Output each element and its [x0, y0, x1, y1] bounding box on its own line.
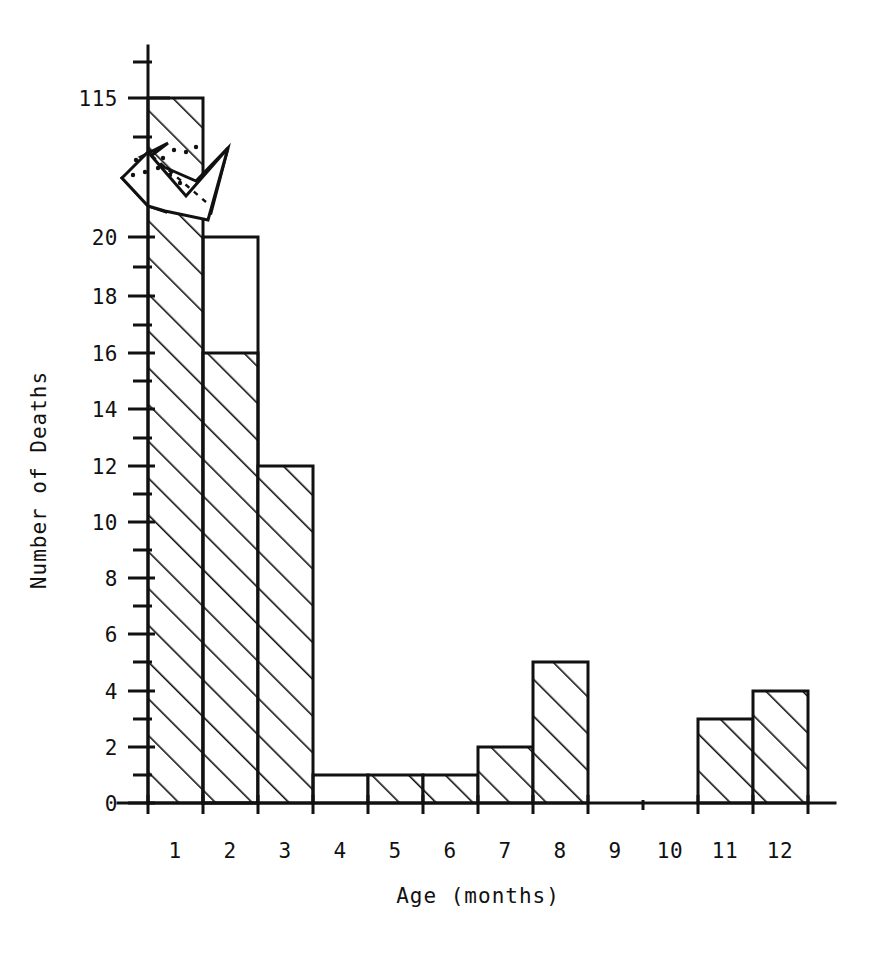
bar-month-5: [368, 775, 423, 803]
bar-month-2: [203, 237, 258, 803]
y-tick-label: 4: [105, 680, 118, 704]
x-tick-label: 12: [767, 839, 793, 863]
y-axis-tick-labels: 0 2 4 6 8 10 12 14 16 18 20 115: [79, 87, 118, 816]
bar-month-4: [313, 775, 368, 803]
x-tick-label: 9: [608, 839, 621, 863]
bar-month-3: [258, 466, 313, 803]
x-axis-tick-labels: 1 2 3 4 5 6 7 8 9 10 11 12: [168, 839, 793, 863]
y-tick-label: 14: [92, 398, 118, 422]
x-tick-label: 8: [553, 839, 566, 863]
y-tick-label: 12: [92, 455, 118, 479]
x-tick-label: 7: [498, 839, 511, 863]
bar-month-8: [533, 662, 588, 803]
x-axis-title: Age (months): [396, 884, 560, 908]
bar-month-11: [698, 719, 753, 803]
chart-canvas: 0 2 4 6 8 10 12 14 16 18 20 115 1 2 3 4 …: [0, 0, 880, 961]
y-tick-label-break: 115: [79, 87, 118, 111]
y-tick-label: 8: [105, 567, 118, 591]
y-tick-label: 6: [105, 623, 118, 647]
x-tick-label: 1: [168, 839, 181, 863]
bar-month-7: [478, 747, 533, 803]
x-tick-label: 2: [223, 839, 236, 863]
x-tick-label: 10: [657, 839, 683, 863]
x-tick-label: 6: [443, 839, 456, 863]
x-tick-label: 4: [333, 839, 346, 863]
histogram-figure: 0 2 4 6 8 10 12 14 16 18 20 115 1 2 3 4 …: [0, 0, 880, 961]
y-tick-label: 18: [92, 285, 118, 309]
y-tick-label: 20: [92, 226, 118, 250]
y-axis-title: Number of Deaths: [27, 371, 51, 589]
bar-month-6: [423, 775, 478, 803]
y-tick-label: 0: [105, 792, 118, 816]
x-tick-label: 11: [712, 839, 738, 863]
bar-month-12: [753, 691, 808, 803]
y-tick-label: 2: [105, 736, 118, 760]
y-tick-label: 16: [92, 342, 118, 366]
x-tick-label: 5: [388, 839, 401, 863]
y-tick-label: 10: [92, 511, 118, 535]
bars-group: [148, 98, 808, 803]
x-tick-label: 3: [278, 839, 291, 863]
